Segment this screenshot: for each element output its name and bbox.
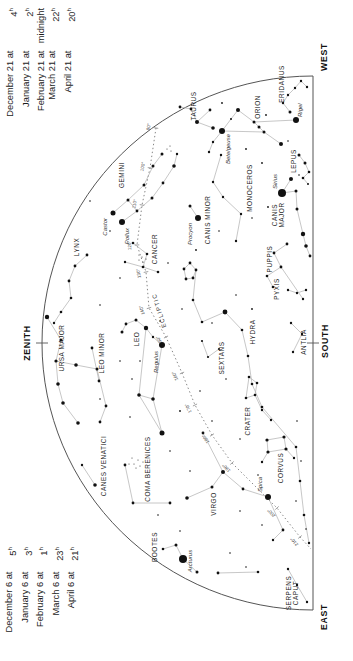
star-dot <box>236 108 240 112</box>
constellation-line <box>100 406 106 422</box>
constellation-label: COMA BERENICES <box>144 436 151 501</box>
star-dot <box>195 120 199 124</box>
constellation-line <box>262 410 271 420</box>
constellation-label: SEXTANS <box>218 341 225 374</box>
constellation-line <box>193 300 202 322</box>
star-dot <box>56 382 60 386</box>
star-name-label: Regulus <box>153 351 159 373</box>
coma-star-cluster <box>128 463 129 464</box>
star-dot <box>286 243 289 246</box>
field-star-dot <box>229 552 231 554</box>
date-time: 3h <box>20 547 36 569</box>
field-star-dot <box>109 230 111 232</box>
star-dot <box>235 240 237 242</box>
star-dot <box>91 347 94 350</box>
constellation-line <box>301 81 307 87</box>
star-dot <box>202 432 205 435</box>
star-dot <box>151 397 155 401</box>
date-time: 21h <box>66 547 82 569</box>
star-dot <box>211 126 215 130</box>
star-dot <box>263 131 266 134</box>
star-dot <box>302 298 304 300</box>
date-label: January 6 at <box>20 569 36 623</box>
ecliptic-degree-label: 130° <box>135 268 142 278</box>
coma-star-cluster <box>135 467 136 468</box>
constellation-label: CORVUS <box>277 453 284 484</box>
date-row: January 21 at 2h <box>21 8 37 158</box>
constellation-line <box>143 254 147 267</box>
constellation-line <box>281 267 303 299</box>
star-name-label: Pollux <box>124 227 130 244</box>
date-row: February 6 at 1h <box>35 547 51 643</box>
field-star-dot <box>195 249 197 251</box>
star-dot <box>270 419 272 421</box>
star-dot <box>307 183 309 185</box>
praesepe-cluster <box>138 254 139 255</box>
star-dot <box>207 356 209 358</box>
date-label: March 6 at <box>51 569 67 616</box>
field-star-dot <box>245 566 247 568</box>
star-dot <box>273 252 276 255</box>
star-name-label: Rigel <box>297 103 303 117</box>
ecliptic-degree-label: 180° <box>201 434 210 445</box>
coma-star-cluster <box>139 465 140 466</box>
star-dot <box>287 289 289 291</box>
constellation-line <box>295 81 301 88</box>
constellation-line <box>133 243 147 254</box>
date-label: April 6 at <box>66 569 82 608</box>
star-dot <box>245 397 248 400</box>
constellation-line <box>246 395 255 398</box>
field-star-dot <box>225 378 227 380</box>
constellation-line <box>197 110 210 122</box>
star-dot <box>284 447 287 450</box>
ecliptic-tick <box>144 272 149 273</box>
constellation-line <box>153 154 162 166</box>
star-dot <box>241 329 244 332</box>
field-star-dot <box>251 308 253 310</box>
constellation-line <box>288 88 295 95</box>
star-dot <box>176 153 178 155</box>
field-star-dot <box>211 322 213 324</box>
constellation-line <box>184 269 186 279</box>
star-dot <box>257 571 260 574</box>
constellation-line <box>238 110 254 122</box>
star-dot <box>265 494 271 500</box>
star-dot <box>159 342 165 348</box>
constellation-line <box>163 166 174 183</box>
star-dot <box>293 117 299 123</box>
star-dot <box>151 197 154 200</box>
star-dot <box>185 278 188 281</box>
star-dot <box>183 268 186 271</box>
field-star-dot <box>179 410 181 412</box>
date-row: December 6 at 5h <box>4 547 20 643</box>
constellation-label: PUPPIS <box>266 246 273 273</box>
ecliptic-degree-label: 160° <box>171 370 179 381</box>
star-dot <box>61 401 65 405</box>
star-dot <box>221 470 225 474</box>
constellation-line <box>243 489 268 497</box>
field-star-dot <box>221 102 223 104</box>
constellation-line <box>152 183 163 198</box>
constellation-line <box>125 465 133 503</box>
constellation-label: MONOCEROS <box>246 164 253 212</box>
constellation-line <box>242 330 248 356</box>
star-dot <box>74 363 78 367</box>
star-dot <box>222 196 224 198</box>
constellation-label: LEO <box>133 332 140 346</box>
field-star-dot <box>179 530 181 532</box>
field-star-dot <box>157 514 159 516</box>
star-dot <box>86 254 89 257</box>
star-name-label: Castor <box>102 217 108 236</box>
date-time: midnight <box>36 8 47 48</box>
field-star-dot <box>298 174 300 176</box>
constellation-line <box>203 433 223 472</box>
star-dot <box>266 275 269 278</box>
constellation-line <box>213 155 221 182</box>
constellation-line <box>286 449 294 458</box>
ecliptic-degree-label: 170° <box>184 403 193 414</box>
star-dot <box>289 177 293 181</box>
constellation-line <box>202 341 208 357</box>
constellation-line <box>283 103 290 112</box>
field-star-dot <box>131 378 133 380</box>
star-dot <box>287 94 289 96</box>
